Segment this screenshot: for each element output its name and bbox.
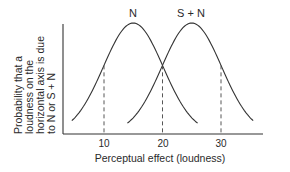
x-axis-label: Perceptual effect (loudness) xyxy=(95,152,226,164)
tick-label-10: 10 xyxy=(98,138,110,149)
tick-label-30: 30 xyxy=(215,138,227,149)
curve-n xyxy=(72,23,198,123)
label-n: N xyxy=(129,7,137,19)
curve-s-plus-n xyxy=(127,23,253,123)
signal-detection-chart: N S + N 10 20 30 Perceptual effect (loud… xyxy=(0,0,290,172)
label-s-plus-n: S + N xyxy=(177,7,205,19)
tick-label-20: 20 xyxy=(157,138,169,149)
y-axis-label-line-4: to N or S + N xyxy=(45,73,57,134)
